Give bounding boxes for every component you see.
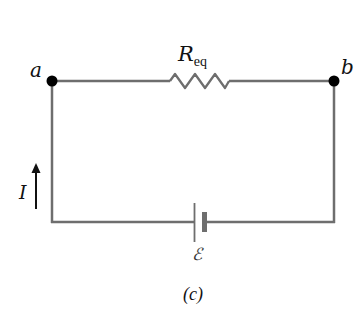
current-arrow-icon bbox=[32, 163, 41, 173]
resistor-label: Req bbox=[178, 44, 207, 65]
resistor-icon bbox=[170, 74, 229, 88]
node-b-label: b bbox=[341, 57, 354, 77]
current-label: I bbox=[19, 183, 27, 202]
resistor-label-main: R bbox=[178, 42, 194, 66]
node-a-label: a bbox=[30, 60, 42, 80]
battery-short-plate-icon bbox=[202, 212, 207, 232]
node-a-dot bbox=[47, 76, 58, 87]
node-b-dot bbox=[329, 76, 340, 87]
emf-label: ℰ bbox=[192, 246, 202, 263]
resistor-label-sub: eq bbox=[194, 54, 207, 69]
diagram-caption: (c) bbox=[183, 285, 203, 303]
